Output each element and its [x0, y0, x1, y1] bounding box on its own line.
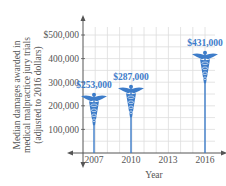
y-tick-label: 300,000 — [48, 78, 79, 88]
x-axis-arrow-right-icon — [221, 151, 226, 156]
data-label: $253,000 — [76, 80, 112, 90]
x-axis-title: Year — [145, 170, 163, 180]
y-tick-label: 200,000 — [48, 101, 79, 111]
data-label: $287,000 — [113, 72, 149, 82]
y-axis-title-line: (adjusted to 2016 dollars) — [33, 46, 44, 143]
caduceus-bars — [81, 51, 218, 153]
x-tick-label: 2016 — [196, 155, 215, 165]
y-tick-label: 400,000 — [48, 54, 79, 64]
caduceus-bar-icon — [118, 85, 144, 153]
data-label: $431,000 — [187, 38, 223, 48]
caduceus-bar-icon — [192, 51, 218, 153]
y-tick-label: $500,000 — [43, 30, 79, 40]
chart: 100,000200,000300,000400,000$500,000 200… — [0, 0, 226, 186]
x-tick-labels: 2007201020132016 — [85, 155, 215, 165]
y-axis-title: Median damages awarded inmedical malprac… — [12, 37, 44, 153]
y-axis-title-line: Median damages awarded in — [12, 40, 22, 149]
x-tick-label: 2010 — [122, 155, 141, 165]
x-tick-label: 2013 — [159, 155, 178, 165]
y-tick-label: 100,000 — [48, 125, 79, 135]
caduceus-bar-icon — [81, 93, 107, 153]
x-axis-arrow-left-icon — [67, 151, 73, 156]
y-axis-title-line: medical malpractice jury trials — [22, 37, 32, 153]
x-tick-label: 2007 — [85, 155, 104, 165]
y-axis-arrow-up-icon — [81, 15, 86, 21]
